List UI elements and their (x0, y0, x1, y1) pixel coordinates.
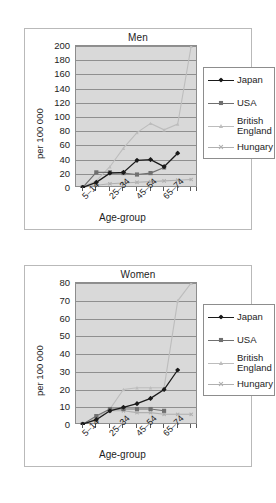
x-tick (196, 424, 197, 428)
data-point-usa (135, 172, 139, 176)
y-tick-label: 50 (59, 330, 70, 341)
series-layer (76, 46, 198, 188)
data-point-usa (148, 407, 152, 411)
data-point-british-england (190, 46, 193, 48)
y-tick-label: 0 (65, 419, 70, 430)
legend-item-usa[interactable]: USA (208, 334, 257, 346)
legend-label: Japan (237, 75, 263, 85)
x-tick (196, 187, 197, 191)
legend-label: Hungary (237, 142, 273, 152)
legend-swatch-diamond-icon (208, 312, 234, 323)
y-axis-label-men: per 100 000 (34, 108, 45, 159)
plot-area-men (75, 45, 197, 187)
y-tick-label: 60 (59, 139, 70, 150)
legend-label-line2: England (237, 363, 272, 373)
x-tick (190, 187, 191, 191)
legend-swatch-triangle-icon (208, 121, 234, 132)
y-axis-label-women: per 100 000 (34, 345, 45, 396)
data-point-japan (134, 401, 139, 406)
data-point-usa (148, 171, 152, 175)
legend-swatch-cross-icon (208, 379, 234, 390)
legend-men: JapanUSABritishEnglandHungary (203, 67, 275, 159)
series-line-british-england (83, 46, 191, 187)
data-point-usa (135, 407, 139, 411)
legend-item-japan[interactable]: Japan (208, 311, 263, 323)
y-tick-label: 120 (54, 96, 70, 107)
y-tick-label: 60 (59, 312, 70, 323)
legend-label: Hungary (237, 379, 273, 389)
y-tick-label: 40 (59, 153, 70, 164)
y-tick-label: 20 (59, 383, 70, 394)
legend-label: USA (237, 335, 257, 345)
y-tick-label: 30 (59, 365, 70, 376)
data-point-usa (162, 409, 166, 413)
data-point-british-england (190, 283, 193, 285)
x-tick (190, 424, 191, 428)
legend-label: BritishEngland (237, 116, 272, 136)
legend-swatch-square-icon (208, 335, 234, 346)
legend-label: Japan (237, 312, 263, 322)
legend-item-british[interactable]: BritishEngland (208, 120, 272, 132)
plot-area-women (75, 282, 197, 424)
legend-swatch-square-icon (208, 98, 234, 109)
y-tick-label: 80 (59, 277, 70, 288)
y-tick-label: 10 (59, 401, 70, 412)
legend-item-hungary[interactable]: Hungary (208, 378, 273, 390)
y-tick-label: 20 (59, 167, 70, 178)
legend-swatch-cross-icon (208, 142, 234, 153)
y-tick-label: 40 (59, 348, 70, 359)
y-tick-label: 80 (59, 125, 70, 136)
figure-women: Women per 100 000 5–1425–3445–5465–74 Ag… (24, 265, 252, 467)
x-axis-title-women: Age-group (99, 449, 146, 460)
legend-item-usa[interactable]: USA (208, 97, 257, 109)
legend-women: JapanUSABritishEnglandHungary (203, 304, 275, 396)
data-point-japan (148, 157, 153, 162)
data-point-usa (94, 170, 98, 174)
legend-item-japan[interactable]: Japan (208, 74, 263, 86)
y-tick-label: 70 (59, 294, 70, 305)
y-tick-label: 140 (54, 82, 70, 93)
legend-swatch-triangle-icon (208, 358, 234, 369)
legend-item-british[interactable]: BritishEngland (208, 357, 272, 369)
x-axis-title-men: Age-group (99, 212, 146, 223)
legend-label: USA (237, 98, 257, 108)
legend-swatch-diamond-icon (208, 75, 234, 86)
y-tick-label: 0 (65, 182, 70, 193)
figure-men: Men per 100 000 5–1425–3445–5465–74 Age-… (24, 28, 252, 230)
legend-label: BritishEngland (237, 353, 272, 373)
y-tick-label: 160 (54, 68, 70, 79)
y-tick-label: 200 (54, 40, 70, 51)
y-tick-label: 180 (54, 54, 70, 65)
legend-label-line2: England (237, 126, 272, 136)
y-tick-label: 100 (54, 111, 70, 122)
series-layer (76, 283, 198, 425)
legend-item-hungary[interactable]: Hungary (208, 141, 273, 153)
